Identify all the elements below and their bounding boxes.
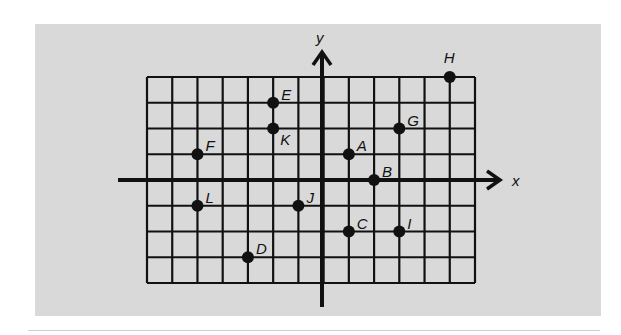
point-label: G xyxy=(407,112,419,129)
point-dot-icon xyxy=(343,226,355,238)
coordinate-grid-diagram: x y ABCDEFGHIJKL xyxy=(0,0,621,335)
point-label: D xyxy=(256,240,267,257)
point-h: H xyxy=(444,49,456,83)
point-g: G xyxy=(393,112,419,135)
point-label: E xyxy=(281,86,292,103)
point-f: F xyxy=(191,137,215,160)
point-l: L xyxy=(191,189,213,212)
point-e: E xyxy=(267,86,292,109)
point-c: C xyxy=(343,215,368,238)
point-label: H xyxy=(444,49,455,66)
point-label: A xyxy=(356,137,367,154)
point-dot-icon xyxy=(393,123,405,135)
point-label: L xyxy=(205,189,213,206)
point-dot-icon xyxy=(267,123,279,135)
y-axis-label: y xyxy=(315,29,325,46)
point-dot-icon xyxy=(444,71,456,83)
point-dot-icon xyxy=(393,226,405,238)
point-dot-icon xyxy=(343,148,355,160)
point-label: C xyxy=(357,215,368,232)
point-dot-icon xyxy=(368,174,380,186)
point-dot-icon xyxy=(292,200,304,212)
point-dot-icon xyxy=(267,97,279,109)
point-b: B xyxy=(368,163,392,186)
point-d: D xyxy=(242,240,267,263)
point-i: I xyxy=(393,215,411,238)
x-axis-label: x xyxy=(511,172,520,189)
point-a: A xyxy=(343,137,367,160)
point-label: K xyxy=(280,131,291,148)
axes: x y xyxy=(118,29,520,307)
point-label: I xyxy=(407,215,411,232)
point-k: K xyxy=(267,123,291,148)
point-label: B xyxy=(382,163,392,180)
point-dot-icon xyxy=(191,148,203,160)
point-label: F xyxy=(205,137,215,154)
point-j: J xyxy=(292,189,314,212)
point-dot-icon xyxy=(242,251,254,263)
point-label: J xyxy=(305,189,314,206)
point-dot-icon xyxy=(191,200,203,212)
